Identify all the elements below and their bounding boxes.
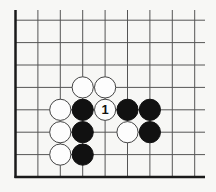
black-stone — [72, 99, 93, 120]
white-stone — [50, 99, 71, 120]
black-stone — [139, 122, 160, 143]
white-stone — [95, 77, 116, 98]
black-stone — [117, 99, 138, 120]
white-stone — [72, 77, 93, 98]
white-stone — [50, 122, 71, 143]
move-number-label: 1 — [101, 102, 108, 117]
white-stone — [50, 144, 71, 165]
white-stone — [117, 122, 138, 143]
black-stone — [72, 122, 93, 143]
go-board: 1 — [0, 0, 216, 192]
black-stone — [72, 144, 93, 165]
black-stone — [139, 99, 160, 120]
